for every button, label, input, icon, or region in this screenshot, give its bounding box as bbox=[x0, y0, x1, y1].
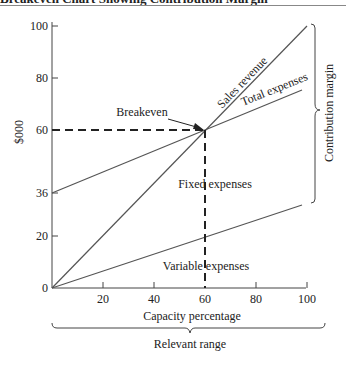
y-tick-labels: 100 80 60 36 20 0 bbox=[30, 19, 48, 295]
relevant-range-brace bbox=[52, 323, 325, 333]
svg-text:20: 20 bbox=[97, 292, 109, 306]
svg-text:60: 60 bbox=[36, 123, 48, 137]
variable-expenses-line bbox=[52, 205, 302, 288]
sales-revenue-line bbox=[52, 26, 307, 288]
svg-text:80: 80 bbox=[36, 71, 48, 85]
svg-text:100: 100 bbox=[30, 19, 48, 33]
svg-text:20: 20 bbox=[36, 229, 48, 243]
svg-text:60: 60 bbox=[199, 292, 211, 306]
breakeven-label: Breakeven bbox=[116, 105, 167, 119]
contribution-margin-brace bbox=[311, 24, 320, 203]
total-expenses-line bbox=[52, 90, 302, 193]
svg-text:80: 80 bbox=[250, 292, 262, 306]
svg-text:40: 40 bbox=[148, 292, 160, 306]
x-tick-labels: 20 40 60 80 100 bbox=[97, 292, 316, 306]
breakeven-arrow-icon bbox=[193, 123, 204, 130]
contribution-margin-label: Contribution margin bbox=[322, 64, 336, 162]
svg-text:100: 100 bbox=[298, 292, 316, 306]
relevant-range-label: Relevant range bbox=[154, 337, 226, 351]
breakeven-chart: 100 80 60 36 20 0 20 40 60 80 100 Breake… bbox=[0, 0, 346, 367]
svg-text:36: 36 bbox=[36, 186, 48, 200]
x-axis-title: Capacity percentage bbox=[143, 309, 241, 323]
y-axis-title: $000 bbox=[12, 120, 26, 144]
fixed-expenses-label: Fixed expenses bbox=[178, 177, 252, 191]
variable-expenses-label: Variable expenses bbox=[163, 259, 250, 273]
svg-text:0: 0 bbox=[42, 281, 48, 295]
